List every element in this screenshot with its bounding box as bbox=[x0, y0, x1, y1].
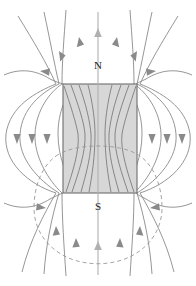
arrowhead-top-c bbox=[112, 37, 119, 47]
field-line-right-outer-4 bbox=[140, 16, 190, 272]
arrowhead-left-3 bbox=[43, 134, 50, 144]
arrowhead-bottom-b bbox=[72, 238, 79, 248]
magnetic-field-figure: N S bbox=[0, 0, 196, 286]
arrowhead-bottom-a bbox=[53, 226, 60, 236]
field-line-left-outer-4 bbox=[6, 16, 56, 272]
field-line-left-outer-2 bbox=[35, 10, 66, 276]
arrowhead-right-3 bbox=[178, 134, 185, 144]
arrowhead-axis-bottom bbox=[94, 241, 102, 250]
arrowhead-top-b bbox=[77, 37, 84, 47]
field-line-top-far-left bbox=[4, 71, 63, 84]
arrowhead-bottom-d bbox=[136, 226, 143, 236]
arrowhead-bottom-c bbox=[116, 238, 123, 248]
field-diagram-svg: N S bbox=[0, 0, 196, 286]
arrowheads-right bbox=[148, 134, 185, 144]
field-lines-outer-right bbox=[130, 10, 190, 276]
arrowhead-axis-top bbox=[94, 28, 102, 37]
arrowhead-left-2 bbox=[28, 134, 35, 144]
arrowhead-right-2 bbox=[163, 134, 170, 144]
arrowhead-bottom-left-horiz bbox=[36, 203, 46, 210]
field-line-bottom-far-left bbox=[4, 193, 63, 207]
bar-magnet-body bbox=[63, 84, 137, 193]
arrowhead-right-1 bbox=[148, 134, 155, 144]
south-pole-label: S bbox=[95, 200, 101, 212]
arrowheads-left bbox=[13, 134, 50, 144]
north-pole-label: N bbox=[94, 59, 102, 71]
arrowhead-bottom-right-horiz bbox=[150, 203, 160, 210]
field-lines-outer-left bbox=[6, 10, 66, 276]
field-line-bottom-far-right bbox=[137, 193, 192, 207]
